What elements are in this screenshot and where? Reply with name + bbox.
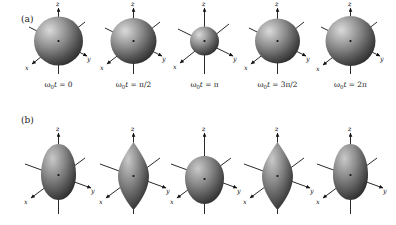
shape-stage-b-1: z y x: [19, 126, 98, 204]
frame-a-2: z y x ω0t = π/2: [94, 0, 173, 112]
oblate-diagram-b-3: z y x: [165, 126, 244, 218]
axis-label-y: y: [232, 55, 237, 63]
axis-label-z: z: [274, 0, 279, 8]
axis-label-z: z: [130, 126, 135, 133]
shape-stage-b-4: z y x: [238, 126, 317, 204]
frame-b-5: z y x: [311, 126, 390, 222]
phase-label-a-5: ω0t = 2π: [311, 80, 390, 90]
prolate-diagram-b-5: z y x: [311, 126, 390, 218]
axis-label-z: z: [274, 126, 279, 133]
sphere-stage-a-3: z y x: [165, 0, 244, 78]
sphere-diagram-a-2: z y x: [94, 0, 173, 78]
shape-stage-b-5: z y x: [311, 126, 390, 204]
panel-b-quadrupole-mode: (b) z: [0, 110, 396, 225]
prolate-diagram-b-1: z y x: [19, 126, 98, 218]
panel-a-monopole-mode: (a): [0, 0, 396, 112]
sphere-diagram-a-3: z y x: [165, 0, 244, 78]
sphere-stage-a-1: z y x: [19, 0, 98, 78]
axis-label-x: x: [24, 198, 28, 206]
axis-label-z: z: [201, 0, 206, 8]
sphere-stage-a-5: z y x: [311, 0, 390, 78]
frame-b-3: z y x: [165, 126, 244, 222]
axis-label-y: y: [86, 55, 91, 63]
phase-label-a-2: ω0t = π/2: [94, 80, 173, 90]
axis-label-y: y: [379, 55, 384, 63]
axis-label-x: x: [25, 64, 29, 72]
axis-label-z: z: [201, 126, 206, 133]
sphere-diagram-a-5: z y x: [311, 0, 390, 78]
axis-label-y: y: [305, 55, 310, 63]
figure-collective-oscillation-modes: (a): [0, 0, 396, 225]
axis-label-x: x: [316, 65, 320, 73]
axis-label-z: z: [347, 0, 352, 8]
axis-label-x: x: [244, 64, 248, 72]
axis-label-y: y: [382, 187, 387, 195]
sphere-stage-a-2: z y x: [94, 0, 173, 78]
axis-label-x: x: [99, 198, 103, 206]
axis-label-z: z: [130, 0, 135, 8]
phase-label-a-1: ω0t = 0: [19, 80, 98, 90]
spindle-diagram-b-4: z y x: [238, 126, 317, 218]
frame-a-4: z y x ω0t = 3π/2: [238, 0, 317, 112]
axis-label-x: x: [173, 63, 177, 71]
axis-label-z: z: [55, 0, 60, 8]
spindle-diagram-b-2: z y x: [94, 126, 173, 218]
frame-a-5: z y x ω0t = 2π: [311, 0, 390, 112]
sphere-stage-a-4: z y x: [238, 0, 317, 78]
frame-b-4: z y x: [238, 126, 317, 222]
frame-b-2: z y x: [94, 126, 173, 222]
frame-b-1: z y x: [19, 126, 98, 222]
axis-label-x: x: [170, 198, 174, 206]
axis-label-x: x: [100, 64, 104, 72]
axis-label-z: z: [347, 126, 352, 133]
shape-stage-b-3: z y x: [165, 126, 244, 204]
axis-label-x: x: [243, 198, 247, 206]
panel-b-label: (b): [21, 115, 34, 125]
sphere-diagram-a-1: z y x: [19, 0, 98, 78]
axis-label-z: z: [55, 126, 60, 133]
phase-label-a-3: ω0t = π: [165, 80, 244, 90]
frame-a-1: z y x ω0t = 0: [19, 0, 98, 112]
phase-label-a-4: ω0t = 3π/2: [238, 80, 317, 90]
shape-stage-b-2: z y x: [94, 126, 173, 204]
sphere-diagram-a-4: z y x: [238, 0, 317, 78]
frame-a-3: z y x ω0t = π: [165, 0, 244, 112]
axis-label-x: x: [316, 198, 320, 206]
